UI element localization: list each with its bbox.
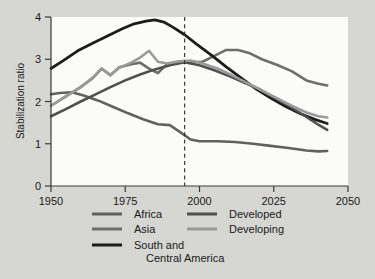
y-tick-label: 1 xyxy=(35,138,41,150)
x-tick-label: 2000 xyxy=(187,195,211,207)
x-tick-label: 1950 xyxy=(39,195,63,207)
y-tick-label: 2 xyxy=(35,96,41,108)
legend-label: Developed xyxy=(229,208,282,220)
y-tick-label: 3 xyxy=(35,53,41,65)
y-axis-title: Stabilization ratio xyxy=(15,62,26,139)
legend-label: Africa xyxy=(134,208,163,220)
legend-label: South and xyxy=(134,239,184,251)
x-tick-label: 1975 xyxy=(113,195,137,207)
y-tick-label: 0 xyxy=(35,180,41,192)
x-tick-label: 2050 xyxy=(336,195,360,207)
stabilization-ratio-line-chart: 01234 19501975200020252050 Stabilization… xyxy=(0,0,375,279)
legend-label: Asia xyxy=(134,223,156,235)
y-tick-label: 4 xyxy=(35,11,41,23)
x-tick-label: 2025 xyxy=(262,195,286,207)
legend-label: Developing xyxy=(229,223,284,235)
chart-figure: 01234 19501975200020252050 Stabilization… xyxy=(0,0,375,279)
legend-label: Central America xyxy=(146,252,225,264)
